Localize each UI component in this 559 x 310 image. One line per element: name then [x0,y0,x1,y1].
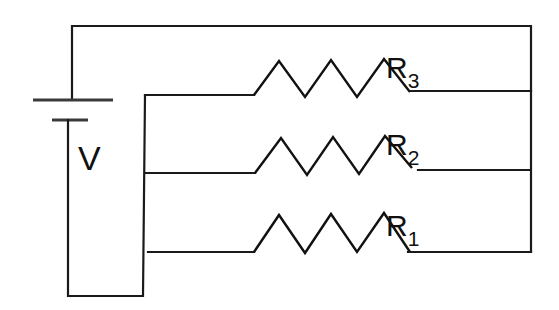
battery-symbol [33,100,113,120]
r3-label: R3 [386,51,419,92]
resistor-r3: R3 [145,51,531,97]
voltage-label: V [78,139,101,177]
r2-label: R2 [386,128,419,169]
bottom-wire [68,95,145,296]
resistor-r1: R1 [148,209,531,253]
resistor-r2: R2 [145,128,530,175]
r1-label: R1 [386,209,419,250]
circuit-diagram: V R3 R2 R1 [0,0,559,310]
top-wire [72,26,531,252]
